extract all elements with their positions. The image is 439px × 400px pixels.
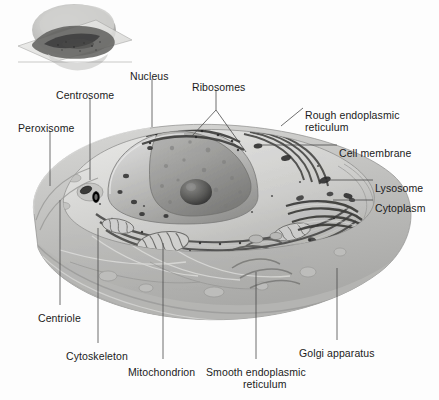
cell-diagram: PeroxisomeCentrosomeNucleusRibosomesRoug… [0, 0, 439, 400]
label-rough-er-2: reticulum [305, 122, 349, 134]
label-centriole: Centriole [38, 313, 81, 325]
whole-cell-inset [18, 4, 132, 70]
cell-illustration [0, 0, 439, 400]
label-smooth-er-2: reticulum [243, 379, 287, 391]
label-smooth-er: Smooth endoplasmic [206, 367, 306, 379]
label-nucleus: Nucleus [130, 71, 169, 83]
label-peroxisome: Peroxisome [18, 123, 74, 135]
label-cytoskeleton: Cytoskeleton [66, 351, 128, 363]
leader-rough-er [281, 108, 303, 126]
label-lysosome: Lysosome [375, 183, 423, 195]
label-golgi: Golgi apparatus [299, 348, 375, 360]
label-mitochondrion: Mitochondrion [128, 367, 195, 379]
label-rough-er: Rough endoplasmic [305, 110, 400, 122]
label-cytoplasm: Cytoplasm [375, 203, 426, 215]
label-cell-membrane: Cell membrane [339, 148, 412, 160]
label-ribosomes: Ribosomes [192, 82, 245, 94]
label-centrosome: Centrosome [56, 90, 114, 102]
nucleolus [180, 179, 212, 205]
